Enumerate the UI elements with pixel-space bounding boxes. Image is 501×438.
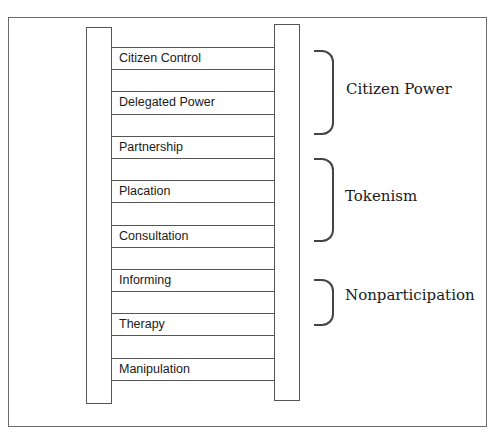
group-label-nonparticipation: Nonparticipation	[345, 286, 475, 304]
rung-line	[112, 380, 274, 381]
ladder-left-rail	[86, 27, 112, 404]
rung-label-therapy: Therapy	[119, 314, 165, 334]
ladder-right-rail	[274, 24, 300, 401]
rung-line	[112, 158, 274, 159]
bracket-citizen-power-icon	[314, 50, 334, 135]
rung-line	[112, 291, 274, 292]
rung-line	[112, 69, 274, 70]
bracket-nonparticipation-icon	[314, 279, 334, 326]
bracket-tokenism-icon	[314, 158, 334, 242]
rung-label-delegated-power: Delegated Power	[119, 92, 215, 112]
rung-line	[112, 335, 274, 336]
group-label-citizen-power: Citizen Power	[346, 80, 452, 98]
rung-label-citizen-control: Citizen Control	[119, 48, 201, 68]
rung-label-partnership: Partnership	[119, 137, 183, 157]
rung-line	[112, 247, 274, 248]
rung-line	[112, 114, 274, 115]
rung-line	[112, 202, 274, 203]
rung-label-informing: Informing	[119, 270, 171, 290]
diagram-frame	[8, 17, 487, 427]
rung-label-manipulation: Manipulation	[119, 359, 190, 379]
rung-label-consultation: Consultation	[119, 226, 189, 246]
rung-label-placation: Placation	[119, 181, 170, 201]
group-label-tokenism: Tokenism	[345, 187, 417, 205]
